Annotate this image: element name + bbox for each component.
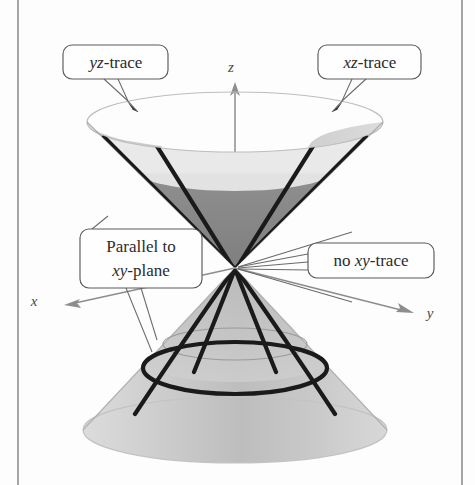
callout-no-xy-rest: -trace (370, 251, 409, 270)
y-axis-label: y (425, 305, 434, 321)
callout-parallel-xy-plane[interactable]: Parallel to xy-plane (80, 229, 202, 288)
callout-xz-trace[interactable]: xz-trace (318, 45, 421, 79)
callout-parallel-line2: xy-plane (111, 261, 170, 280)
callout-parallel-italic: xy (111, 261, 128, 280)
z-axis-label: z (227, 59, 234, 75)
leader-yz-trace (104, 79, 138, 112)
callout-parallel-line1: Parallel to (106, 237, 175, 256)
callout-no-xy-trace-label: no xy-trace (333, 251, 408, 270)
x-axis-label: x (30, 293, 38, 309)
callout-yz-trace-label: yz-trace (88, 53, 143, 72)
callout-xz-trace-italic: xz (343, 53, 359, 72)
xz-leader-arrowhead (332, 101, 344, 112)
y-axis-arrowhead (396, 303, 414, 313)
callout-no-xy-trace[interactable]: no xy-trace (308, 243, 434, 278)
leader-xz-trace (332, 79, 366, 112)
callout-yz-trace-italic: yz (88, 53, 105, 72)
double-cone-diagram: yz-trace xz-trace Parallel to xy-plane n… (0, 0, 475, 485)
callout-yz-trace[interactable]: yz-trace (63, 45, 168, 79)
callout-no-xy-prefix: no (333, 251, 354, 270)
callout-xz-trace-rest: -trace (358, 53, 397, 72)
x-axis-arrowhead (64, 299, 81, 308)
figure-container: yz-trace xz-trace Parallel to xy-plane n… (0, 0, 475, 485)
callout-yz-trace-rest: -trace (104, 53, 143, 72)
lower-cone (83, 268, 387, 463)
callout-xz-trace-label: xz-trace (343, 53, 397, 72)
callout-parallel-rest: -plane (127, 261, 169, 280)
callout-no-xy-italic: xy (354, 251, 371, 270)
yz-leader-arrowhead (126, 101, 138, 112)
